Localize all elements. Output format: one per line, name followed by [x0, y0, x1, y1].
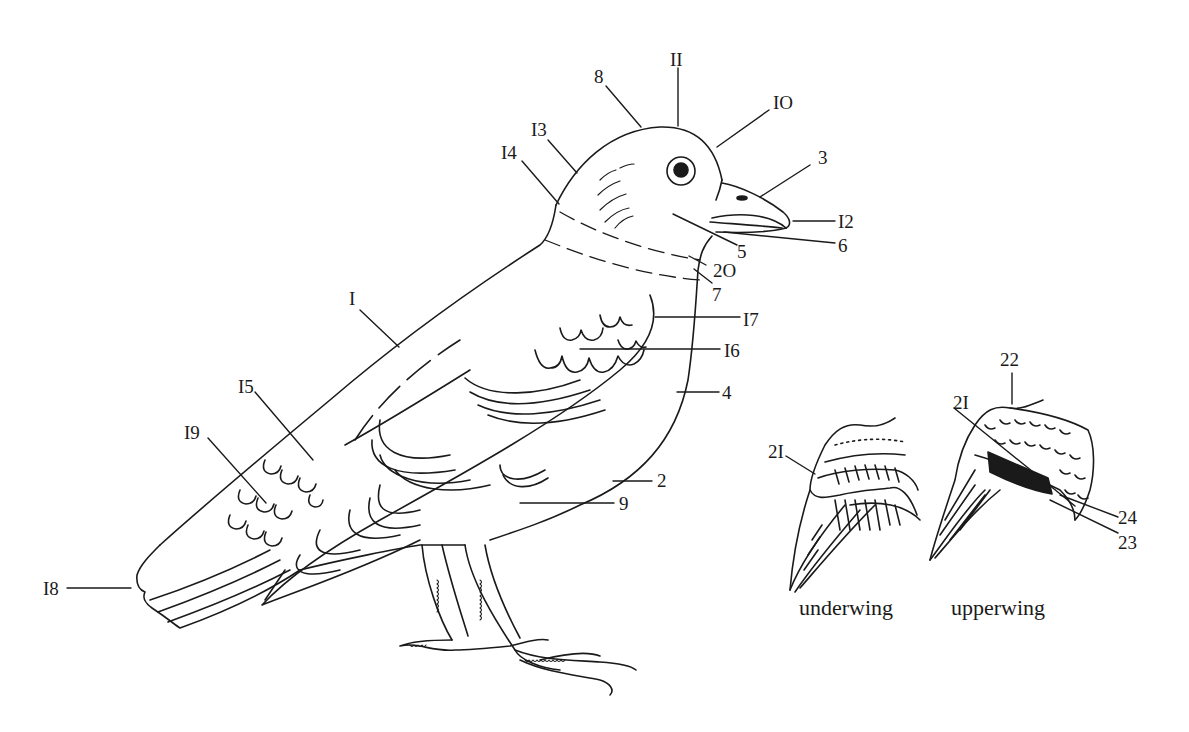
label-18-tail: I8 — [43, 579, 59, 598]
label-12-bill-tip: I2 — [838, 212, 854, 231]
label-5-ear-coverts: 5 — [737, 242, 747, 261]
label-2-flank: 2 — [657, 471, 667, 490]
label-7-throat: 7 — [712, 285, 722, 304]
bird-legs — [400, 545, 636, 695]
label-14-hindneck: I4 — [501, 143, 517, 162]
leader-21-underwing — [786, 456, 815, 474]
leader-lines — [67, 68, 835, 588]
label-4-breast: 4 — [722, 383, 732, 402]
label-23-secondaries: 23 — [1118, 533, 1137, 552]
label-16-wing-coverts: I6 — [724, 341, 740, 360]
bird-body-outline — [137, 127, 722, 628]
upperwing-drawing — [930, 400, 1094, 560]
label-20-chin: 2O — [713, 261, 736, 280]
label-15-rump: I5 — [238, 377, 254, 396]
caption-underwing: underwing — [799, 597, 893, 619]
label-8-crown: 8 — [594, 67, 604, 86]
label-11-crown-top: II — [670, 50, 683, 69]
label-19-uppertail-coverts: I9 — [184, 423, 200, 442]
label-13-nape: I3 — [531, 120, 547, 139]
underwing-drawing — [790, 418, 920, 592]
folded-wing — [228, 295, 653, 605]
label-24-speculum: 24 — [1118, 508, 1137, 527]
label-6-lower-mandible: 6 — [838, 236, 848, 255]
label-1-back: I — [349, 289, 355, 308]
caption-upperwing: upperwing — [951, 597, 1045, 619]
neck-collar-lines — [545, 212, 700, 280]
label-17-scapulars: I7 — [743, 310, 759, 329]
label-21-underwing-alula: 2I — [768, 442, 784, 461]
label-10-forehead: IO — [773, 93, 793, 112]
label-22-wrist: 22 — [1000, 350, 1019, 369]
bird-beak — [710, 183, 790, 232]
ear-coverts-hatching — [598, 164, 634, 228]
label-3-upper-mandible: 3 — [818, 148, 828, 167]
bird-eye — [667, 157, 695, 185]
label-21-upperwing-alula: 2I — [953, 393, 969, 412]
label-9-belly: 9 — [619, 494, 629, 513]
